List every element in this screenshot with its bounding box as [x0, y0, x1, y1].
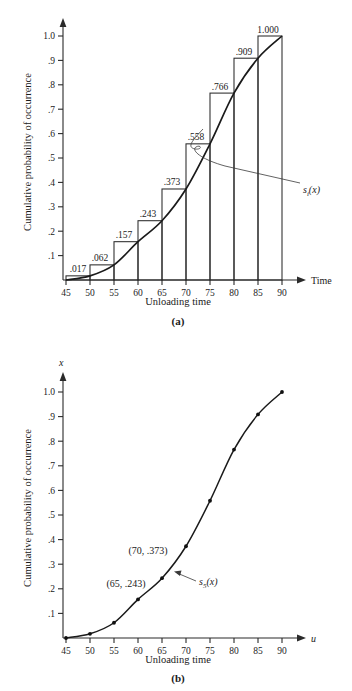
y-tick-label: .4: [48, 535, 55, 545]
data-point: [64, 636, 68, 640]
chart-a-svg: .1.2.3.4.5.6.7.8.91.0 455055606570758085…: [0, 0, 352, 340]
bar-value-label: .373: [164, 177, 181, 187]
curve-label-s5: s5(x): [199, 576, 218, 590]
y-tick-label: .8: [48, 80, 55, 90]
y-tick-label: .7: [48, 461, 55, 471]
y-tick-label: .1: [48, 251, 55, 261]
data-point: [256, 412, 260, 416]
y-axis-arrowhead-b: [60, 372, 67, 381]
y-tick-label: .2: [48, 584, 55, 594]
x-tick-label: 45: [61, 646, 71, 656]
x-tick-label: 90: [277, 646, 287, 656]
y-tick-label: .3: [48, 560, 55, 570]
y-tick-label: .5: [48, 153, 55, 163]
data-point: [160, 576, 164, 580]
y-tick-label: .9: [48, 412, 55, 422]
x-tick-label: 85: [253, 646, 263, 656]
curve-label-s5-tail: (x): [206, 576, 218, 588]
x-tick-group-b: [66, 638, 282, 643]
bar-value-label: .243: [140, 209, 157, 219]
y-tick-label-group: .1.2.3.4.5.6.7.8.91.0: [43, 31, 55, 261]
x-tick-label: 60: [133, 288, 143, 298]
step-bar: [138, 221, 162, 280]
chart-a-y-axis: .1.2.3.4.5.6.7.8.91.0: [43, 18, 66, 280]
step-bar: [186, 144, 210, 280]
x-tick-label: 55: [109, 288, 119, 298]
y-tick-label: .1: [48, 609, 55, 619]
step-bar: [258, 36, 282, 280]
x-axis-title-b: Unloading time: [145, 654, 211, 665]
y-tick-label: .7: [48, 105, 55, 115]
x-tick-label: 80: [229, 288, 239, 298]
y-tick-label: 1.0: [43, 31, 55, 41]
step-bar: [162, 189, 186, 280]
x-tick-label: 55: [109, 646, 119, 656]
bar-value-label: .017: [70, 264, 87, 274]
point-annotation-70: (70, .373): [128, 545, 167, 557]
y-tick-group-b: [58, 392, 63, 613]
x-axis-arrowhead: [297, 277, 306, 284]
data-point: [232, 448, 236, 452]
y-tick-label: 1.0: [43, 387, 55, 397]
data-point: [112, 621, 116, 625]
point-annotation-65: (65, .243): [106, 578, 145, 590]
y-tick-label-group-b: .1.2.3.4.5.6.7.8.91.0: [43, 387, 55, 618]
data-point: [208, 499, 212, 503]
y-tick-label: .8: [48, 437, 55, 447]
chart-b-svg: .1.2.3.4.5.6.7.8.91.0 x 4550556065707580…: [0, 330, 352, 691]
y-tick-label: .6: [48, 486, 55, 496]
chart-b-x-axis: 45505560657075808590: [61, 635, 306, 656]
curve-label-arrowhead-b: [174, 571, 182, 577]
y-tick-group: [58, 36, 63, 256]
panel-label-a: (a): [172, 315, 185, 328]
y-tick-label: .2: [48, 227, 55, 237]
bar-value-label: .062: [92, 253, 109, 263]
x-axis-arrowhead-b: [297, 635, 306, 642]
step-bars-group: [66, 36, 282, 280]
y-axis-title-b: Cumulative probability of occurrence: [22, 429, 33, 587]
data-point: [184, 544, 188, 548]
cumulative-curve: [66, 36, 282, 280]
data-point: [280, 390, 284, 394]
x-tick-group: [66, 280, 282, 285]
y-tick-label: .3: [48, 202, 55, 212]
y-axis-arrowhead: [60, 18, 67, 27]
bar-value-label: .909: [236, 47, 253, 57]
data-point: [136, 597, 140, 601]
curve-label-si-tail: (x): [309, 184, 321, 196]
x-tick-label: 90: [277, 288, 287, 298]
x-tick-label: 85: [253, 288, 263, 298]
y-tick-label: .5: [48, 510, 55, 520]
x-axis-name-u: u: [311, 633, 316, 644]
chart-b-y-axis: .1.2.3.4.5.6.7.8.91.0: [43, 372, 66, 638]
bar-value-label: 1.000: [257, 25, 279, 35]
x-tick-label: 80: [229, 646, 239, 656]
bar-value-label: .157: [116, 230, 133, 240]
step-bar: [210, 93, 234, 280]
x-tick-label: 50: [85, 646, 95, 656]
panel-label-b: (b): [171, 672, 185, 685]
y-tick-label: .6: [48, 129, 55, 139]
figure-panel-a: .1.2.3.4.5.6.7.8.91.0 455055606570758085…: [0, 0, 352, 340]
x-tick-label: 60: [133, 646, 143, 656]
y-axis-title-a: Cumulative probability of occurrence: [22, 73, 33, 231]
x-tick-label: 45: [61, 288, 71, 298]
bar-value-label-group: .017.062.157.243.373.558.766.9091.000: [70, 25, 279, 275]
ogive-curve: [66, 392, 282, 638]
data-point: [88, 632, 92, 636]
curve-label-leader-line: [191, 129, 300, 183]
y-tick-label: .9: [48, 56, 55, 66]
data-point-group: [64, 390, 284, 640]
figure-panel-b: .1.2.3.4.5.6.7.8.91.0 x 4550556065707580…: [0, 330, 352, 691]
x-axis-title-a: Unloading time: [145, 296, 211, 307]
curve-label-si: si(x): [303, 184, 321, 198]
y-tick-label: .4: [48, 178, 55, 188]
x-tick-label: 50: [85, 288, 95, 298]
bar-value-label: .766: [212, 82, 229, 92]
x-axis-name-time: Time: [311, 275, 332, 286]
y-axis-name-x: x: [58, 357, 64, 368]
